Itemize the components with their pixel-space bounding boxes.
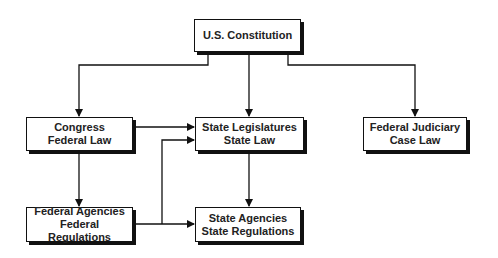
node-label: Federal Judiciary: [370, 121, 461, 134]
node-label: State Law: [224, 134, 275, 147]
node-label: State Regulations: [202, 225, 295, 238]
node-label: State Legislatures: [202, 121, 297, 134]
node-state-agencies: State Agencies State Regulations: [195, 207, 301, 242]
node-congress: Congress Federal Law: [26, 117, 133, 151]
node-federal-judiciary: Federal Judiciary Case Law: [363, 117, 467, 151]
node-label: State Agencies: [209, 212, 287, 225]
edge-constitution-judiciary: [288, 52, 415, 116]
edge-fed-agencies-state-leg: [162, 140, 194, 224]
edge-constitution-congress: [79, 52, 208, 116]
node-us-constitution: U.S. Constitution: [194, 19, 301, 52]
node-label: Federal Regulations: [27, 218, 132, 244]
node-label: Congress: [54, 121, 105, 134]
node-state-legislatures: State Legislatures State Law: [195, 117, 304, 151]
node-label: Federal Law: [48, 134, 112, 147]
node-label: U.S. Constitution: [203, 29, 292, 42]
node-label: Federal Agencies: [34, 205, 125, 218]
node-federal-agencies: Federal Agencies Federal Regulations: [26, 207, 133, 242]
node-label: Case Law: [390, 134, 441, 147]
